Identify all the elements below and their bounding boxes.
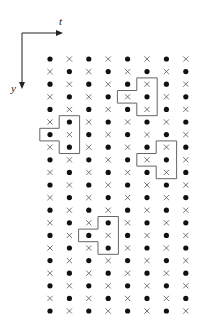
dot-point [106, 195, 111, 200]
dot-point [125, 82, 130, 87]
dot-point [86, 208, 91, 213]
dot-point [67, 94, 72, 99]
dot-point [67, 296, 72, 301]
cross-point [47, 94, 52, 99]
dot-point [125, 56, 130, 61]
dot-point [47, 182, 52, 187]
dot-point [183, 69, 188, 74]
dot-point [67, 119, 72, 124]
cross-point [106, 56, 111, 61]
dot-point [47, 56, 52, 61]
dot-point [183, 271, 188, 276]
dot-point [67, 195, 72, 200]
cross-point [106, 107, 111, 112]
dot-point [144, 271, 149, 276]
highlighted-shapes [40, 78, 177, 254]
dot-point [125, 283, 130, 288]
dot-point [125, 107, 130, 112]
dot-point [86, 56, 91, 61]
cross-point [125, 296, 130, 301]
cross-point [125, 119, 130, 124]
t-axis-arrow-icon [56, 30, 63, 36]
dot-point [144, 145, 149, 150]
cross-point [125, 195, 130, 200]
dot-point [183, 195, 188, 200]
dot-point [106, 170, 111, 175]
cross-point [67, 182, 72, 187]
dot-point [183, 245, 188, 250]
cross-point [183, 258, 188, 263]
cross-point [183, 56, 188, 61]
dot-point [86, 283, 91, 288]
cross-point [183, 208, 188, 213]
dot-point [106, 220, 111, 225]
cross-point [125, 245, 130, 250]
cross-point [164, 245, 169, 250]
cross-point [67, 258, 72, 263]
cross-point [144, 157, 149, 162]
dot-point [125, 182, 130, 187]
dot-point [106, 119, 111, 124]
dot-point [106, 94, 111, 99]
cross-point [47, 119, 52, 124]
cross-point [183, 107, 188, 112]
cross-point [47, 170, 52, 175]
t-axis-label: t [59, 15, 63, 27]
dot-point [183, 145, 188, 150]
cross-point [125, 170, 130, 175]
cross-point [125, 271, 130, 276]
cross-point [144, 132, 149, 137]
cross-point [47, 296, 52, 301]
dot-point [86, 258, 91, 263]
cross-point [144, 56, 149, 61]
cross-point [183, 283, 188, 288]
dot-point [47, 132, 52, 137]
dot-point [125, 132, 130, 137]
y-axis-label: y [10, 82, 16, 94]
cross-point [67, 56, 72, 61]
dot-point [106, 69, 111, 74]
cross-point [106, 182, 111, 187]
dot-point [125, 208, 130, 213]
cross-point [144, 182, 149, 187]
cross-point [47, 220, 52, 225]
cross-point [164, 271, 169, 276]
dot-point [125, 258, 130, 263]
cross-point [144, 82, 149, 87]
cross-point [183, 308, 188, 313]
cross-point [86, 119, 91, 124]
dot-point [86, 82, 91, 87]
dot-point [47, 208, 52, 213]
cross-point [67, 157, 72, 162]
dot-point [47, 308, 52, 313]
cross-point [164, 119, 169, 124]
cross-point [67, 132, 72, 137]
dot-point [67, 69, 72, 74]
dot-point [47, 258, 52, 263]
cross-point [47, 271, 52, 276]
dot-point [164, 283, 169, 288]
cross-point [86, 195, 91, 200]
dot-point [183, 94, 188, 99]
dot-point [144, 296, 149, 301]
dot-point [47, 82, 52, 87]
shape-bottom [79, 217, 119, 255]
cross-point [47, 245, 52, 250]
dot-point [183, 170, 188, 175]
cross-point [86, 296, 91, 301]
cross-point [164, 69, 169, 74]
cross-point [125, 145, 130, 150]
dot-point [86, 107, 91, 112]
dot-point [106, 145, 111, 150]
dot-point [86, 308, 91, 313]
dot-point [164, 107, 169, 112]
cross-point [125, 220, 130, 225]
dot-point [47, 157, 52, 162]
cross-point [144, 308, 149, 313]
dot-point [164, 258, 169, 263]
cross-point [164, 296, 169, 301]
cross-point [144, 258, 149, 263]
cross-point [86, 245, 91, 250]
dot-point [47, 107, 52, 112]
cross-point [183, 182, 188, 187]
